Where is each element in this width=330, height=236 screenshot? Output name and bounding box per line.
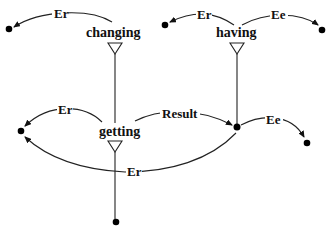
node-changing-triangle-icon [108, 43, 122, 54]
edge-label-bottom-er: Er [127, 164, 142, 179]
entity-dot-mid-left [18, 128, 25, 135]
entity-dot-mid-right [234, 124, 241, 131]
edge-label-having-er: Er [197, 7, 212, 22]
entity-dot-bottom [113, 219, 120, 226]
entity-dot-top-mid [162, 22, 169, 29]
edge-label-getting-result: Result [162, 106, 198, 121]
entity-dot-top-left [6, 26, 13, 33]
diagram-canvas: Er changing Er Ee having Er Result Ee Er… [0, 0, 330, 236]
node-having-triangle-icon [230, 43, 244, 54]
node-getting[interactable]: getting [99, 124, 140, 139]
node-getting-triangle-icon [108, 141, 122, 152]
node-having[interactable]: having [216, 25, 256, 40]
edge-label-mid-ee: Ee [266, 112, 281, 127]
entity-dot-right [304, 140, 311, 147]
edge-label-getting-er: Er [58, 102, 73, 117]
edge-label-having-ee: Ee [271, 7, 286, 22]
edge-label-changing-er: Er [54, 6, 69, 21]
entity-dot-top-right [319, 27, 326, 34]
node-changing[interactable]: changing [86, 25, 140, 40]
